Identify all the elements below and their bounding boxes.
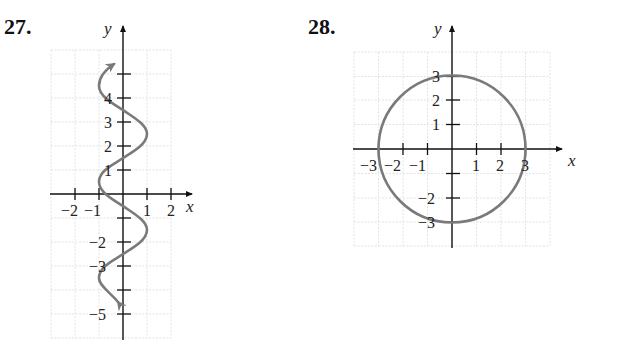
x-axis-label-27: x	[185, 197, 194, 216]
y-tick-label-28: 1	[432, 116, 440, 133]
y-tick-label-28: 3	[432, 68, 440, 85]
y-tick-label-28: 2	[432, 92, 440, 109]
x-tick-label-27: 1	[143, 202, 151, 219]
y-tick-label-28: −3	[418, 214, 435, 231]
x-tick-label-28: −3	[360, 157, 377, 174]
x-tick-label-27: 2	[167, 202, 175, 219]
graph-27: y x 4 3 2 1 −2 −3 −5 −2 −1 1 2	[50, 19, 194, 340]
y-tick-label-27: −5	[89, 306, 106, 323]
graphs-canvas: y x 4 3 2 1 −2 −3 −5 −2 −1 1 2	[0, 0, 618, 361]
y-tick-label-27: 4	[104, 90, 112, 107]
x-tick-label-28: 1	[472, 157, 480, 174]
x-tick-label-27: −2	[61, 202, 78, 219]
y-tick-label-27: 1	[104, 162, 112, 179]
x-tick-label-28: −2	[384, 157, 401, 174]
x-tick-label-27: −1	[84, 202, 101, 219]
x-axis-label-28: x	[567, 151, 576, 170]
graph-28: y x 3 2 1 −2 −3 −3 −2 −1 1 2 3	[353, 19, 576, 248]
x-tick-label-28: −1	[409, 157, 426, 174]
y-tick-label-27: −3	[89, 258, 106, 275]
y-axis-label-28: y	[432, 19, 442, 38]
y-tick-label-27: 2	[104, 138, 112, 155]
x-tick-label-28: 3	[521, 157, 529, 174]
y-axis-label-27: y	[102, 19, 112, 38]
y-tick-label-27: −2	[89, 234, 106, 251]
x-tick-label-28: 2	[496, 157, 504, 174]
y-tick-label-28: −2	[418, 190, 435, 207]
y-tick-label-27: 3	[104, 114, 112, 131]
